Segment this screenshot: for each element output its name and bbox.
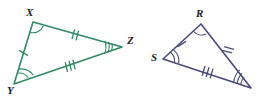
angle-mark-z bbox=[104, 41, 112, 54]
side-tick-st bbox=[202, 66, 213, 78]
triangle-xyz bbox=[14, 22, 122, 84]
side-tick-rt bbox=[222, 47, 234, 53]
side-tick-yz bbox=[65, 60, 75, 72]
angle-mark-r bbox=[194, 32, 206, 35]
angle-mark-y bbox=[17, 69, 33, 78]
vertex-label-y: Y bbox=[7, 85, 14, 96]
geometry-figure: X Y Z R S Banco de imagens bbox=[0, 0, 273, 100]
triangle-xyz-outline bbox=[14, 22, 122, 84]
side-tick-xz bbox=[72, 29, 79, 40]
vertex-label-x: X bbox=[26, 7, 33, 18]
vertex-label-z: Z bbox=[127, 35, 134, 46]
triangle-rs-outline bbox=[163, 24, 251, 88]
vertex-label-r: R bbox=[196, 8, 203, 19]
triangles-canvas bbox=[0, 0, 273, 100]
vertex-label-s: S bbox=[151, 52, 157, 63]
triangle-rs bbox=[163, 24, 251, 88]
